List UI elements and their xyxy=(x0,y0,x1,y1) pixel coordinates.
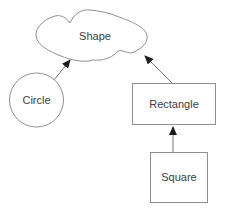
diagram-canvas: Shape Circle Rectangle Square xyxy=(0,0,226,212)
edge-circle-to-shape xyxy=(54,60,70,80)
circle-node-label: Circle xyxy=(22,94,50,106)
rectangle-node-label: Rectangle xyxy=(149,98,199,110)
inheritance-diagram: Shape Circle Rectangle Square xyxy=(0,0,226,212)
edge-rectangle-to-shape xyxy=(145,56,172,83)
shape-node-label: Shape xyxy=(79,30,111,42)
square-node-label: Square xyxy=(161,171,196,183)
